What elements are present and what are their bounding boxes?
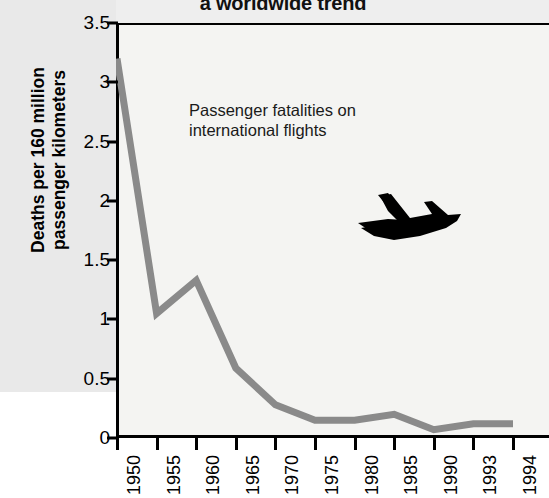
y-axis-tick-label: 1.5 — [64, 249, 110, 271]
y-axis-tick-mark — [107, 377, 118, 380]
y-axis-tick-label: 0.5 — [64, 368, 110, 390]
x-axis-tick-label: 1975 — [322, 455, 343, 495]
x-axis-tick-label: 1990 — [441, 455, 462, 495]
y-axis-tick-mark — [107, 140, 118, 143]
y-axis-tick-label: 1 — [64, 308, 110, 330]
series-annotation-line1: Passenger fatalities on — [189, 100, 356, 120]
x-axis-tick-label: 1985 — [401, 455, 422, 495]
x-axis-tick-mark — [354, 438, 357, 450]
x-axis-tick-label: 1993 — [480, 455, 501, 495]
x-axis-tick-label: 1950 — [124, 455, 145, 495]
x-axis-tick-mark — [433, 438, 436, 450]
y-axis-tick-labels: 00.511.522.533.5 — [58, 0, 110, 498]
y-axis-tick-mark — [107, 22, 118, 25]
x-axis-tick-label: 1965 — [243, 455, 264, 495]
x-axis-tick-mark — [274, 438, 277, 450]
chart-page: a worldwide trend Deaths per 160 million… — [0, 0, 549, 498]
y-axis-tick-label: 3.5 — [64, 12, 110, 34]
x-axis-tick-mark — [314, 438, 317, 450]
series-annotation-line2: international flights — [189, 120, 356, 140]
airplane-silhouette-icon — [358, 184, 464, 254]
y-axis-tick-label: 3 — [64, 71, 110, 93]
series-annotation: Passenger fatalities on international fl… — [189, 100, 356, 140]
x-axis-tick-mark — [512, 438, 515, 450]
chart-title: a worldwide trend — [118, 0, 448, 10]
x-axis-tick-label: 1994 — [520, 455, 541, 495]
y-axis-tick-mark — [107, 259, 118, 262]
x-axis-tick-mark — [195, 438, 198, 450]
x-axis-tick-label: 1970 — [282, 455, 303, 495]
x-axis-tick-mark — [156, 438, 159, 450]
x-axis-tick-mark — [235, 438, 238, 450]
y-axis-title-line1: Deaths per 160 million — [28, 30, 49, 290]
x-axis-tick-label: 1980 — [362, 455, 383, 495]
data-line-chart — [116, 23, 549, 438]
y-axis-tick-label: 2 — [64, 190, 110, 212]
y-axis-tick-mark — [107, 81, 118, 84]
x-axis-tick-mark — [393, 438, 396, 450]
y-axis-tick-mark — [107, 199, 118, 202]
x-axis-tick-label: 1955 — [164, 455, 185, 495]
y-axis-tick-label: 2.5 — [64, 131, 110, 153]
y-axis-tick-mark — [107, 318, 118, 321]
x-axis-tick-mark — [472, 438, 475, 450]
x-axis-tick-mark — [116, 438, 119, 450]
y-axis-tick-label: 0 — [64, 427, 110, 449]
x-axis-tick-label: 1960 — [203, 455, 224, 495]
